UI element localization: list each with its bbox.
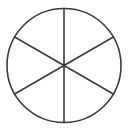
six-sector-circle-diagram <box>0 0 129 129</box>
